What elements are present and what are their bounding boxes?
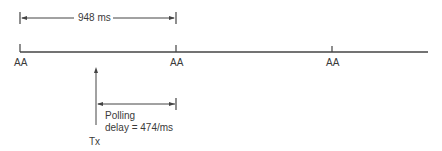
interval-label: 948 ms: [78, 12, 111, 23]
arrow-left-icon: [21, 16, 27, 20]
polling-label-line2: delay = 474/ms: [105, 122, 173, 133]
arrow-right-icon: [169, 16, 175, 20]
timing-diagram: [0, 0, 442, 151]
arrow-right-icon: [169, 102, 175, 106]
arrow-left-icon: [97, 102, 103, 106]
polling-label-line1: Polling: [105, 110, 135, 121]
marker-label-3: AA: [326, 57, 339, 68]
marker-label-1: AA: [14, 57, 27, 68]
arrow-up-icon: [94, 67, 98, 73]
tx-label: Tx: [89, 136, 100, 147]
marker-label-2: AA: [170, 57, 183, 68]
